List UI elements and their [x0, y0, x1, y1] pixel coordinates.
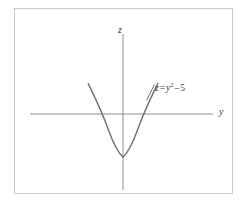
- axis-label-y: y: [219, 107, 223, 117]
- equation-constant: 5: [180, 83, 185, 93]
- axis-label-z: z: [118, 25, 122, 35]
- plot-canvas: [0, 0, 247, 210]
- equation-equals: =: [159, 83, 166, 93]
- figure-container: z y z=y2–5: [0, 0, 247, 210]
- equation-annotation: z=y2–5: [155, 84, 185, 94]
